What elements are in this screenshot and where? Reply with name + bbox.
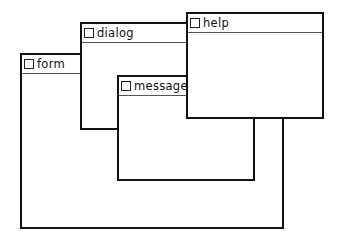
window-title: message (134, 80, 188, 92)
window-title: form (37, 58, 65, 70)
window-help[interactable]: help (186, 12, 324, 119)
close-box-icon[interactable] (24, 59, 34, 69)
titlebar-help[interactable]: help (188, 14, 322, 33)
close-box-icon[interactable] (84, 28, 94, 38)
titlebar-dialog[interactable]: dialog (82, 24, 186, 43)
window-title: dialog (97, 27, 134, 39)
close-box-icon[interactable] (121, 81, 131, 91)
window-title: help (203, 17, 229, 29)
close-box-icon[interactable] (190, 18, 200, 28)
